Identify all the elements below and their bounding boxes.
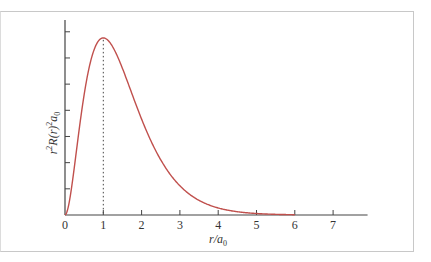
axes: [65, 20, 368, 215]
radial-distribution-chart: 01234567 r/a0 r2R(r)2a0: [0, 0, 431, 262]
x-tick-label: 6: [292, 218, 298, 232]
ticks: [65, 32, 333, 215]
x-tick-label: 1: [100, 218, 106, 232]
x-tick-label: 3: [177, 218, 183, 232]
x-tick-label: 2: [139, 218, 145, 232]
x-tick-label: 5: [254, 218, 260, 232]
x-tick-labels: 01234567: [62, 218, 336, 232]
x-axis-label: r/a0: [209, 232, 227, 248]
x-tick-label: 4: [215, 218, 221, 232]
y-axis-label: r2R(r)2a0: [45, 112, 62, 155]
data-curve: [65, 38, 295, 215]
x-tick-label: 7: [330, 218, 336, 232]
x-tick-label: 0: [62, 218, 68, 232]
